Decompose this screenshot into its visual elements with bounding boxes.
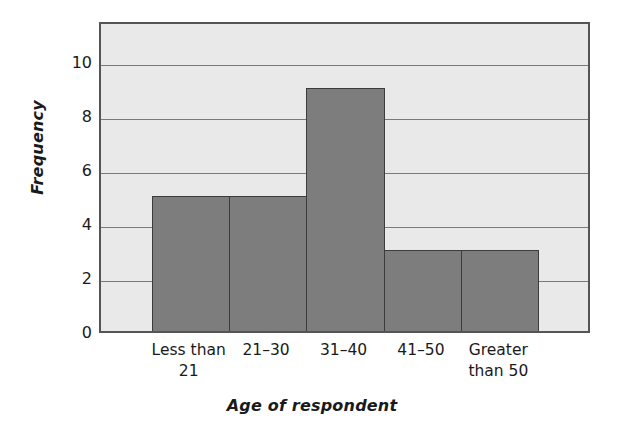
x-tick-label-line: Less than: [150, 340, 227, 361]
x-tick-label-line: than 50: [460, 361, 537, 382]
y-tick-label: 2: [52, 271, 92, 287]
x-tick-label-line: 21: [150, 361, 227, 382]
y-tick-label: 6: [52, 163, 92, 179]
x-tick-label-line: 21–30: [227, 340, 304, 361]
y-tick-label: 8: [52, 109, 92, 125]
plot-area: [99, 22, 590, 333]
x-tick-label: Greaterthan 50: [460, 340, 537, 382]
histogram-figure: Frequency 0246810 Less than2121–3031–404…: [0, 0, 624, 440]
y-axis-tick-labels: 0246810: [52, 22, 92, 333]
bar: [306, 88, 384, 331]
x-tick-label: 31–40: [305, 340, 382, 382]
x-tick-label: Less than21: [150, 340, 227, 382]
x-axis-title: Age of respondent: [0, 396, 624, 415]
y-tick-label: 4: [52, 217, 92, 233]
x-tick-label-line: 41–50: [382, 340, 459, 361]
y-tick-label: 10: [52, 55, 92, 71]
bar: [229, 196, 307, 331]
y-tick-label: 0: [52, 325, 92, 341]
x-tick-label-line: 31–40: [305, 340, 382, 361]
x-tick-label-line: Greater: [460, 340, 537, 361]
bar: [461, 250, 539, 331]
bar-series: [152, 24, 539, 331]
x-axis-tick-labels: Less than2121–3031–4041–50Greaterthan 50: [150, 340, 537, 382]
bar: [152, 196, 230, 331]
bar: [384, 250, 462, 331]
x-tick-label: 21–30: [227, 340, 304, 382]
x-tick-label: 41–50: [382, 340, 459, 382]
y-axis-title: Frequency: [28, 68, 47, 228]
